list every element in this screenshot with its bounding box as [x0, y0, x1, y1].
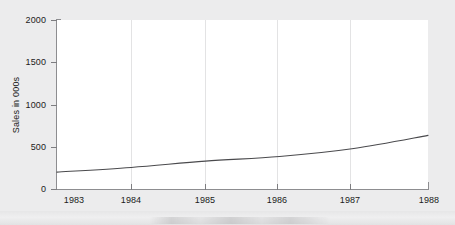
- x-tick-1985: [205, 184, 206, 190]
- y-tick-1000: [51, 105, 57, 106]
- y-tick-label-500: 500: [31, 142, 46, 152]
- x-tick-1986: [277, 184, 278, 190]
- y-tick-label-0: 0: [41, 184, 46, 194]
- x-tick-label-1987: 1987: [340, 195, 360, 205]
- x-tick-label-1984: 1984: [121, 195, 141, 205]
- x-tick-label-1985: 1985: [195, 195, 215, 205]
- x-axis-line: [56, 189, 429, 190]
- x-tick-label-1988: 1988: [419, 195, 439, 205]
- x-tick-1984: [131, 184, 132, 190]
- x-tick-label-1983: 1983: [64, 195, 84, 205]
- paper-scan-smudge: [150, 217, 330, 224]
- paper-bottom-edge: [0, 211, 455, 225]
- plot-area: [57, 20, 428, 189]
- y-tick-1500: [51, 62, 57, 63]
- x-tick-1987: [350, 184, 351, 190]
- y-tick-500: [51, 147, 57, 148]
- y-tick-0: [51, 189, 57, 190]
- x-axis-right-cap: [428, 182, 429, 190]
- y-tick-label-1500: 1500: [26, 57, 46, 67]
- gridline-1987: [350, 20, 351, 189]
- y-axis-title: Sales in 000s: [11, 77, 21, 134]
- y-tick-label-2000: 2000: [26, 15, 46, 25]
- y-tick-2000: [51, 20, 57, 21]
- line-chart-figure: 2000 1500 1000 500 0 1983 1984 1985 1986…: [0, 0, 455, 225]
- gridline-1984: [131, 20, 132, 189]
- gridline-1986: [277, 20, 278, 189]
- gridline-1985: [205, 20, 206, 189]
- x-tick-label-1986: 1986: [267, 195, 287, 205]
- y-tick-label-1000: 1000: [26, 100, 46, 110]
